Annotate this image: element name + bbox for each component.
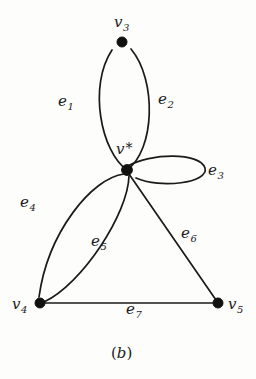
edge-label-e5-sub: 5	[100, 241, 106, 252]
edge-label-e1-base: e	[58, 92, 67, 110]
edge-label-e3: e3	[208, 162, 223, 178]
edges-group	[39, 49, 216, 303]
edge-label-e2-base: e	[158, 90, 167, 108]
vertex-label-v4-base: v	[12, 295, 20, 313]
edge-label-e6-sub: 6	[190, 233, 196, 244]
edge-label-e7-base: e	[126, 300, 135, 318]
figure-container: v3 v* v4 v5 e1 e2 e3 e4 e5 e6 e7 (b)	[0, 0, 256, 379]
edge-label-e7-sub: 7	[135, 309, 141, 320]
edge-e4[interactable]	[39, 174, 124, 297]
edge-label-e5: e5	[91, 233, 106, 249]
edge-e3-self-loop[interactable]	[128, 156, 205, 184]
vertex-label-v4: v4	[12, 296, 27, 312]
edge-label-e4-base: e	[20, 193, 29, 211]
edge-label-e2: e2	[158, 91, 173, 107]
vertex-label-v4-sub: 4	[21, 304, 27, 315]
edge-label-e5-base: e	[91, 232, 100, 250]
vertex-label-vstar: v*	[116, 141, 131, 157]
vertex-label-v3: v3	[114, 14, 129, 30]
figure-caption-close: )	[126, 344, 132, 362]
vertex-label-v5-base: v	[228, 295, 236, 313]
vertex-label-v5: v5	[228, 296, 243, 312]
graph-canvas	[0, 0, 256, 379]
vertex-dot-v5[interactable]	[213, 298, 223, 308]
edge-label-e4-sub: 4	[29, 202, 35, 213]
vertex-label-vstar-base: v	[116, 140, 124, 158]
vertices-group	[35, 37, 223, 308]
edge-label-e7: e7	[126, 301, 141, 317]
vertex-label-v3-base: v	[114, 13, 122, 31]
edge-label-e4: e4	[20, 194, 35, 210]
figure-caption: (b)	[111, 344, 132, 362]
vertex-dot-vstar[interactable]	[122, 165, 133, 176]
asterisk-icon: *	[125, 140, 132, 156]
vertex-label-v5-sub: 5	[237, 304, 243, 315]
edge-label-e3-base: e	[208, 161, 217, 179]
vertex-dot-v3[interactable]	[117, 37, 127, 47]
vertex-label-v3-sub: 3	[123, 22, 129, 33]
vertex-dot-v4[interactable]	[35, 298, 45, 308]
edge-label-e1-sub: 1	[67, 101, 73, 112]
edge-label-e6-base: e	[181, 224, 190, 242]
edge-label-e6: e6	[181, 225, 196, 241]
edge-label-e3-sub: 3	[217, 170, 223, 181]
edge-e6[interactable]	[129, 174, 216, 300]
edge-label-e2-sub: 2	[167, 99, 173, 110]
edge-label-e1: e1	[58, 93, 73, 109]
